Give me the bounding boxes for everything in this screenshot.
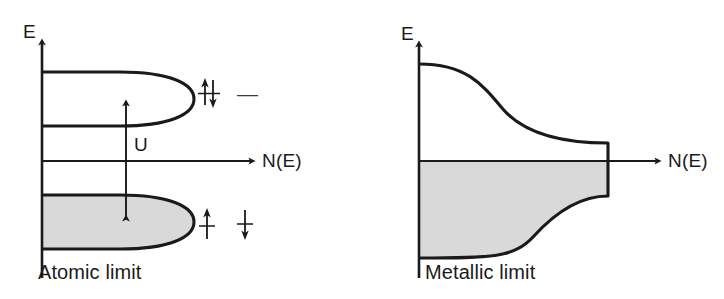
- caption-metallic-limit: Metallic limit: [425, 262, 535, 282]
- band-upper-boundary: [419, 64, 608, 161]
- upper-hubbard-band-outline: [42, 72, 194, 126]
- panel-atomic-limit: E N(E) U — Atomic limit: [0, 0, 362, 299]
- spin-paired-up-down-icon: [198, 78, 220, 108]
- x-axis-label-ne: N(E): [668, 151, 708, 170]
- figure-density-of-states: E N(E) U — Atomic limit E N(E) Metallic …: [0, 0, 724, 299]
- spin-down-icon: [237, 210, 253, 240]
- occupied-states-fill: [419, 161, 608, 258]
- empty-state-dash-label: —: [237, 83, 258, 104]
- y-axis-label-energy: E: [401, 24, 414, 43]
- caption-atomic-limit: Atomic limit: [38, 262, 141, 282]
- x-axis-label-ne: N(E): [262, 151, 302, 170]
- spin-up-icon: [199, 208, 215, 239]
- panel-metallic-limit: E N(E) Metallic limit: [362, 0, 724, 299]
- lower-hubbard-band-fill: [42, 195, 194, 249]
- atomic-limit-plot: [0, 0, 362, 299]
- coulomb-u-label: U: [134, 135, 148, 154]
- y-axis-label-energy: E: [23, 22, 36, 41]
